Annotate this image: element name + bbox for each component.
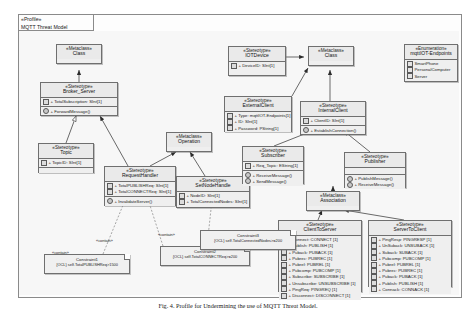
attribute-label: + Pubrec: PUBREC [1]: [289, 256, 333, 261]
attribute-label: + Pubrec: PUBREC [1]: [379, 268, 423, 273]
iot-device-name: IOTDevice: [231, 53, 283, 59]
attribute-label: + Type: mqttIOT-Endpoints[1]: [235, 113, 291, 118]
literal-icon: [407, 67, 413, 73]
attribute-row: + Unsubscribe: UNSUBSCRIBE [1]: [281, 280, 360, 286]
attribute-row: + TopicID: SInt[1]: [41, 160, 92, 166]
set-node-handle-name: SetNodeHandle: [179, 183, 247, 189]
attribute-icon: [281, 274, 287, 280]
attribute-label: + PingReq: PINGREQ [1]: [289, 287, 337, 292]
literal-icon: [407, 61, 413, 67]
literal-row: PersonalComputer: [407, 67, 456, 73]
attribute-icon: [107, 183, 113, 189]
server-to-client-box[interactable]: «Stereotype» ServerToClient + PingResp: …: [368, 220, 452, 287]
subscriber-box[interactable]: «Stereotype» Subscriber + Req_Topic: ESt…: [242, 146, 304, 184]
metaclass-class-right-name: Class: [311, 53, 351, 59]
metaclass-association-box[interactable]: «Metaclass» Association: [306, 191, 360, 211]
attribute-icon: [371, 280, 377, 286]
operation-icon: [245, 178, 251, 184]
operation-label: + EstablishConnection(): [311, 128, 357, 133]
attribute-icon: [43, 99, 49, 105]
broker-server-operations: + ForwardMessage(): [41, 106, 117, 115]
attribute-icon: [227, 113, 233, 119]
edge-label-contain-3: «contain»: [158, 232, 175, 237]
attribute-row: + Subscribe: SUBSCRIBE [1]: [281, 274, 360, 280]
iot-device-box[interactable]: «Stereotype» IOTDevice + DeviceID: SInt[…: [228, 46, 286, 76]
attribute-row: + Req_Topic: EString[1]: [245, 163, 302, 169]
attribute-icon: [371, 255, 377, 261]
constraint-note-1[interactable]: Constraint1 {OCL} self.TotalPUBLISHReq>1…: [44, 254, 130, 274]
attribute-icon: [281, 268, 287, 274]
attribute-label: + TotalSubscription: SInt[1]: [51, 99, 102, 104]
attribute-label: + Pubrel: PUBREL [1]: [379, 262, 421, 267]
attribute-row: + Puback: PUBACK [1]: [371, 274, 450, 280]
attribute-icon: [227, 125, 233, 131]
attribute-label: + Unsubscribe: UNSUBSCRIBE [1]: [289, 281, 356, 286]
literal-row: Server: [407, 73, 456, 79]
attribute-label: + TotalConnectedNodes: SInt[1]: [187, 199, 248, 204]
attribute-row: + Pubcomp: PUBCOMP [1]: [281, 268, 360, 274]
attribute-icon: [227, 119, 233, 125]
request-handler-box[interactable]: «Stereotype» RequestHandler + TotalPUBLI…: [104, 166, 176, 206]
attribute-row: + TotalConnectedNodes: SInt[1]: [179, 199, 248, 205]
literal-label: Server: [415, 74, 428, 79]
attribute-icon: [179, 199, 185, 205]
publisher-box[interactable]: «Stereotype» Publisher + PublishMessage(…: [344, 152, 406, 188]
external-client-box[interactable]: «Stereotype» ExternalClient + Type: mqtt…: [224, 96, 292, 132]
server-to-client-attributes: + PingResp: PINGRESP [1] + UnSuback: UNS…: [369, 236, 451, 294]
metaclass-operation-box[interactable]: «Metaclass» Operation: [166, 132, 212, 152]
constraint-note-3[interactable]: Constraint3 {OCL} self.TotalConnectedNod…: [200, 230, 296, 250]
attribute-icon: [281, 255, 287, 261]
note-corner-icon: [124, 254, 130, 260]
attribute-icon: [371, 268, 377, 274]
metaclass-class-top-name: Class: [59, 51, 99, 57]
external-client-attributes: + Type: mqttIOT-Endpoints[1] + ID: SInt[…: [225, 112, 291, 133]
topic-attributes: + TopicID: SInt[1]: [39, 159, 93, 167]
internal-client-box[interactable]: «Stereotype» InternalClient + ClientID: …: [300, 101, 366, 135]
metaclass-class-right-box[interactable]: «Metaclass» Class: [308, 46, 354, 66]
attribute-row: + Pubrel: PUBREL [1]: [281, 262, 360, 268]
attribute-row: + Connack: CONNACK [1]: [371, 286, 450, 292]
attribute-label: + Req_Topic: EString[1]: [253, 163, 298, 168]
broker-server-box[interactable]: «Stereotype» Broker_Server + TotalSubscr…: [40, 82, 118, 116]
attribute-icon: [245, 163, 251, 169]
operation-label: + ReceiveMessage(): [355, 182, 395, 187]
enumeration-name: mqttIOT-Endpoints: [407, 51, 455, 57]
operation-icon: [347, 182, 353, 188]
server-to-client-name: ServerToClient: [371, 227, 449, 233]
operation-label: + PublishMessage(): [355, 176, 393, 181]
topic-box[interactable]: «Stereotype» Topic + TopicID: SInt[1]: [38, 143, 94, 173]
attribute-label: + Pubcomp: PUBCOMP [1]: [379, 256, 431, 261]
subscriber-operations: + ReceiveMessage() + SendMessage(): [243, 170, 303, 186]
attribute-label: + Subscribe: SUBSCRIBE [1]: [289, 274, 345, 279]
request-handler-attributes: + TotalPUBLISHReq: SInt[1] + TotalCONNEC…: [105, 182, 175, 197]
attribute-label: + Pubcomp: PUBCOMP [1]: [289, 268, 341, 273]
attribute-icon: [371, 243, 377, 249]
operation-label: + InvalidateServer(): [115, 199, 153, 204]
attribute-icon: [371, 262, 377, 268]
attribute-label: + Disconnect: DISCONNECT [1]: [289, 293, 351, 298]
set-node-handle-attributes: + NodeID: SInt[1] + TotalConnectedNodes:…: [177, 192, 249, 207]
literal-label: PersonalComputer: [415, 67, 451, 72]
attribute-icon: [371, 249, 377, 255]
attribute-row: + PingReq: PINGREQ [1]: [281, 286, 360, 292]
attribute-icon: [179, 193, 185, 199]
operation-icon: [303, 127, 309, 133]
enumeration-endpoints-box[interactable]: «Enumeration» mqttIOT-Endpoints SmartPho…: [404, 44, 458, 82]
set-node-handle-box[interactable]: «Stereotype» SetNodeHandle + NodeID: SIn…: [176, 176, 250, 208]
topic-name: Topic: [41, 150, 91, 156]
metaclass-operation-name: Operation: [169, 139, 209, 145]
attribute-icon: [281, 262, 287, 268]
attribute-label: + ID: SInt[1]: [235, 119, 258, 124]
broker-server-attributes: + TotalSubscription: SInt[1]: [41, 98, 117, 106]
attribute-row: + Puback: PUBACK [1]: [281, 249, 360, 255]
operation-label: + ReceiveMessage(): [253, 173, 293, 178]
attribute-row: + UnSuback: UNSUBACK [1]: [371, 243, 450, 249]
metaclass-class-top-box[interactable]: «Metaclass» Class: [56, 44, 102, 64]
attribute-row: + Disconnect: DISCONNECT [1]: [281, 293, 360, 299]
external-client-name: ExternalClient: [227, 103, 289, 109]
enumeration-literals: SmartPhone PersonalComputer Server: [405, 60, 457, 81]
operation-row: + ReceiveMessage(): [245, 172, 302, 178]
publisher-operations: + PublishMessage() + ReceiveMessage(): [345, 174, 405, 190]
attribute-label: + DeviceID: SInt[1]: [239, 63, 275, 68]
operation-row: + InvalidateServer(): [107, 198, 174, 204]
